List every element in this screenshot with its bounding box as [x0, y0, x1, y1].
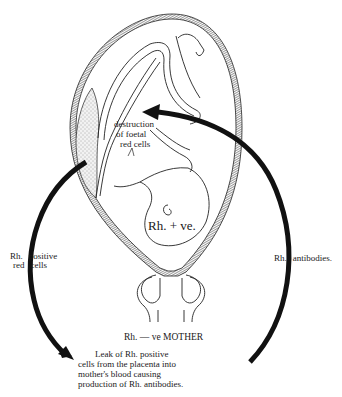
- label-red: red: [13, 260, 25, 270]
- label-cells: cells: [31, 260, 48, 270]
- label-destruction-line1: destruction: [114, 119, 154, 129]
- label-antibodies: antibodies.: [293, 253, 332, 263]
- label-rh-positive-red-cells-line2: redcells: [13, 260, 47, 270]
- label-rh-negative-mother: Rh. — ve MOTHER: [124, 332, 203, 342]
- label-fetus-rh-positive: Rh. + ve.: [148, 219, 196, 233]
- label-destruction-line3: red cells: [120, 139, 150, 149]
- placenta: [76, 88, 99, 198]
- caption-line1: Leak of Rh. positive: [95, 349, 169, 360]
- fetus-head: [140, 168, 209, 246]
- fetus: [96, 34, 209, 246]
- label-destruction-line2: of foetal: [116, 129, 146, 139]
- cervix: [137, 275, 204, 322]
- pointer-line: [128, 148, 134, 156]
- caption-line3: mother's blood causing: [78, 369, 161, 380]
- label-rh-2: Rh.: [274, 253, 287, 263]
- caption-line2: cells from the placenta into: [78, 359, 176, 370]
- label-rh-antibodies: Rh.antibodies.: [274, 253, 332, 263]
- caption-line4: production of Rh. antibodies.: [78, 379, 183, 390]
